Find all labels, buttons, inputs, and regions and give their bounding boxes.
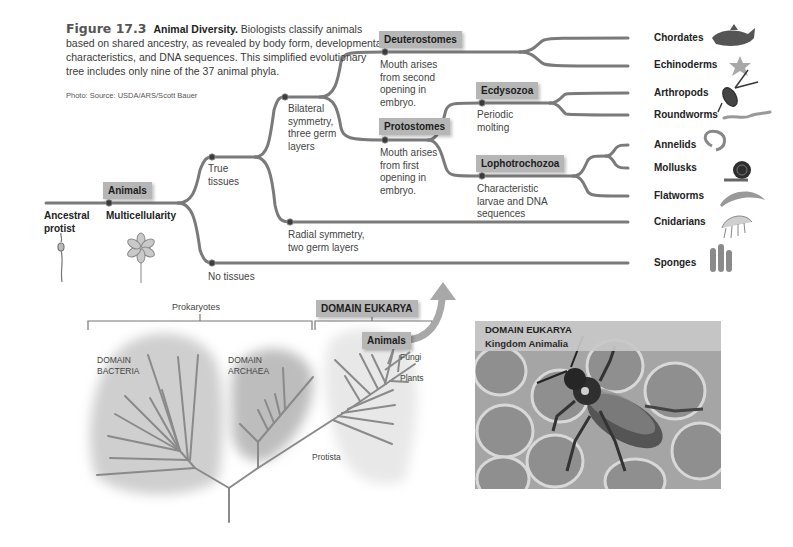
archaea-line1: DOMAIN — [228, 355, 269, 366]
domain-eukarya-box: DOMAIN EUKARYA — [316, 300, 418, 317]
bacteria-line1: DOMAIN — [97, 355, 140, 366]
phylum-roundworms: Roundworms — [654, 109, 718, 120]
roundworm-icon — [724, 112, 770, 118]
bilateral-line2: symmetry, — [288, 116, 336, 129]
photo-kingdom-label: Kingdom Animalia — [485, 338, 568, 349]
phylum-echinoderms: Echinoderms — [654, 59, 717, 70]
honeybee-photo: DOMAIN EUKARYA Kingdom Animalia — [475, 321, 721, 489]
domain-blobs — [90, 329, 417, 494]
radial-line2: two germ layers — [288, 242, 365, 255]
animals-highlight-box: Animals — [103, 182, 152, 199]
bacteria-line2: BACTERIA — [97, 366, 140, 377]
deuterostomes-line2: from second — [380, 72, 437, 85]
no-tissues-label: No tissues — [208, 271, 255, 284]
radial-symmetry-label: Radial symmetry, two germ layers — [288, 229, 365, 254]
ecdysozoa-line1: Periodic — [477, 109, 513, 122]
lophotrochozoa-highlight-box: Lophotrochozoa — [476, 155, 564, 172]
domain-archaea-label: DOMAIN ARCHAEA — [228, 355, 269, 377]
phylum-chordates: Chordates — [654, 32, 703, 43]
protista-label: Protista — [312, 452, 341, 463]
phylum-annelids: Annelids — [654, 139, 696, 150]
phylum-mollusks: Mollusks — [654, 162, 697, 173]
protostomes-line4: embryo. — [380, 185, 437, 198]
true-tissues-label: True tissues — [208, 163, 239, 188]
protostomes-line2: from first — [380, 160, 437, 173]
lobster-icon — [718, 70, 758, 112]
phylum-arthropods: Arthropods — [654, 87, 708, 98]
bilateral-line1: Bilateral — [288, 103, 336, 116]
flatworm-icon — [720, 192, 765, 207]
protostomes-line3: opening in — [380, 172, 437, 185]
ecdysozoa-line2: molting — [477, 122, 513, 135]
starfish-icon — [729, 56, 751, 76]
phylum-flatworms: Flatworms — [654, 190, 704, 201]
multicellular-colony-icon — [126, 233, 156, 283]
sponge-icon — [710, 244, 732, 272]
protostomes-description: Mouth arises from first opening in embry… — [380, 147, 437, 197]
figure-number: Figure 17.3 — [66, 21, 147, 36]
protostomes-line1: Mouth arises — [380, 147, 437, 160]
jellyfish-icon — [722, 216, 752, 238]
animals-eukarya-box: Animals — [362, 332, 411, 349]
ancestral-protist-label: Ancestral protist — [44, 209, 90, 235]
bilateral-line4: layers — [288, 141, 336, 154]
snail-icon — [724, 161, 751, 180]
phylum-sponges: Sponges — [654, 257, 696, 268]
fungi-label: Fungi — [400, 352, 421, 363]
lophotrochozoa-line2: larvae and DNA — [477, 196, 548, 209]
deuterostomes-line4: embryo. — [380, 97, 437, 110]
figure-title: Animal Diversity. — [153, 23, 237, 35]
domain-bacteria-label: DOMAIN BACTERIA — [97, 355, 140, 377]
radial-line1: Radial symmetry, — [288, 229, 365, 242]
multicellularity-label: Multicellularity — [106, 209, 176, 222]
bilateral-symmetry-label: Bilateral symmetry, three germ layers — [288, 103, 336, 153]
ecdysozoa-description: Periodic molting — [477, 109, 513, 134]
deuterostomes-line3: opening in — [380, 84, 437, 97]
bilateral-line3: three germ — [288, 128, 336, 141]
true-tissues-line1: True — [208, 163, 239, 176]
photo-header: DOMAIN EUKARYA Kingdom Animalia — [475, 321, 721, 351]
ecdysozoa-highlight-box: Ecdysozoa — [476, 82, 538, 99]
lophotrochozoa-line3: sequences — [477, 208, 548, 221]
deuterostomes-line1: Mouth arises — [380, 59, 437, 72]
shark-icon — [712, 24, 755, 46]
true-tissues-line2: tissues — [208, 176, 239, 189]
ancestral-protist-line1: Ancestral — [44, 209, 90, 222]
deuterostomes-highlight-box: Deuterostomes — [379, 31, 462, 48]
deuterostomes-description: Mouth arises from second opening in embr… — [380, 59, 437, 109]
protostomes-highlight-box: Protostomes — [379, 118, 450, 135]
lophotrochozoa-description: Characteristic larvae and DNA sequences — [477, 183, 548, 221]
phylum-cnidarians: Cnidarians — [654, 216, 706, 227]
annelid-icon — [705, 131, 724, 150]
archaea-line2: ARCHAEA — [228, 366, 269, 377]
plants-label: Plants — [400, 373, 424, 384]
prokaryotes-label: Prokaryotes — [172, 302, 220, 313]
lophotrochozoa-line1: Characteristic — [477, 183, 548, 196]
ancestral-protist-line2: protist — [44, 222, 90, 235]
figure-caption: Figure 17.3 Animal Diversity. Biologists… — [66, 22, 386, 78]
ancestral-protist-icon — [58, 233, 64, 282]
photo-credit: Photo: Source: USDA/ARS/Scott Bauer — [66, 91, 197, 100]
photo-domain-label: DOMAIN EUKARYA — [485, 324, 572, 335]
